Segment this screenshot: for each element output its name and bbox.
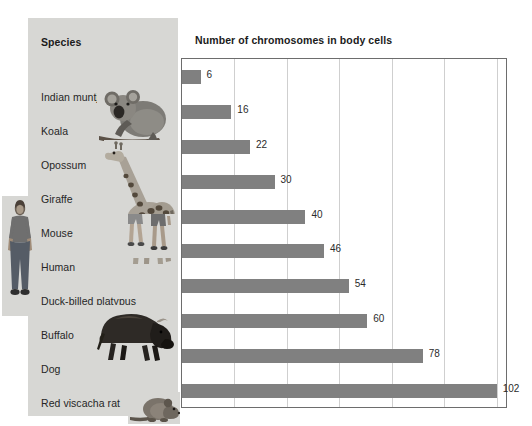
bar-series: 61622304046546078102 [182,59,506,407]
bar-human [182,244,324,258]
bar-row: 78 [182,349,506,363]
bar-row: 30 [182,175,506,189]
species-label-buffalo: Buffalo [41,329,74,341]
species-label-koala: Koala [41,125,68,137]
bar-row: 16 [182,105,506,119]
bar-value-label: 16 [237,104,248,115]
species-label-duck-billed-platypus: Duck-billed platypus [41,295,136,307]
species-label-dog: Dog [41,363,60,375]
bar-row: 60 [182,314,506,328]
bar-row: 102 [182,384,506,398]
bar-value-label: 102 [503,383,520,394]
species-column-header: Species [41,36,81,48]
bar-row: 22 [182,140,506,154]
bar-giraffe [182,175,275,189]
bar-value-label: 54 [355,278,366,289]
bar-value-label: 46 [330,243,341,254]
bar-mouse [182,210,305,224]
bar-row: 54 [182,279,506,293]
species-label-red-viscacha-rat: Red viscacha rat [41,397,120,409]
bar-value-label: 60 [373,313,384,324]
species-label-human: Human [41,261,75,273]
bar-duck-billed-platypus [182,279,349,293]
bar-opossum [182,140,250,154]
bar-buffalo [182,314,367,328]
bar-indian-muntjac-deer [182,70,201,84]
bar-koala [182,105,231,119]
bar-value-label: 22 [256,139,267,150]
species-label-opossum: Opossum [41,159,86,171]
species-label-indian-muntjac-deer: Indian muntjac deer [41,91,134,103]
bar-value-label: 40 [311,209,322,220]
species-label-giraffe: Giraffe [41,193,73,205]
plot-area: 61622304046546078102 [181,58,507,408]
bar-value-label: 78 [429,348,440,359]
bar-row: 46 [182,244,506,258]
bar-row: 40 [182,210,506,224]
species-panel: Species Indian muntjac deer Koala Opossu… [28,18,178,416]
bar-row: 6 [182,70,506,84]
bar-value-label: 30 [281,174,292,185]
bar-red-viscacha-rat [182,384,497,398]
chromosome-chart-figure: Species Indian muntjac deer Koala Opossu… [0,0,532,426]
species-label-mouse: Mouse [41,227,73,239]
bar-dog [182,349,423,363]
bar-value-label: 6 [207,69,213,80]
chart-title: Number of chromosomes in body cells [195,34,392,46]
